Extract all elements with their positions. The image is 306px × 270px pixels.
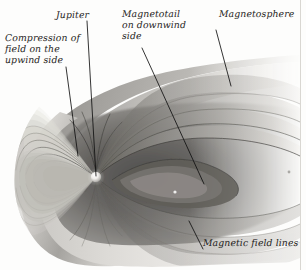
label-magnetotail: Magnetotail on downwind side <box>122 9 186 43</box>
label-jupiter: Jupiter <box>56 10 89 21</box>
label-compression: Compression of field on the upwind side <box>5 33 80 67</box>
label-magnetic-field-lines: Magnetic field lines <box>203 238 298 249</box>
figure-right-border <box>300 0 301 270</box>
tail-speck <box>173 190 176 193</box>
label-magnetosphere: Magnetosphere <box>219 9 294 20</box>
magnetosphere-figure: Jupiter Magnetotail on downwind side Mag… <box>0 0 306 270</box>
stray-speck <box>288 171 291 174</box>
